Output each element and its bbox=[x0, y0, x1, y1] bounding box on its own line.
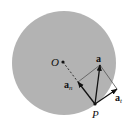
label-P: P bbox=[91, 108, 99, 120]
center-point-O bbox=[61, 60, 64, 63]
label-a-n-subscript: n bbox=[69, 84, 73, 92]
point-P bbox=[93, 102, 96, 105]
label-a-t: at bbox=[115, 92, 123, 105]
label-a-t-subscript: t bbox=[120, 97, 123, 105]
circular-motion-diagram: O P a an at bbox=[0, 0, 131, 129]
label-a: a bbox=[96, 53, 101, 64]
label-O: O bbox=[51, 56, 59, 68]
